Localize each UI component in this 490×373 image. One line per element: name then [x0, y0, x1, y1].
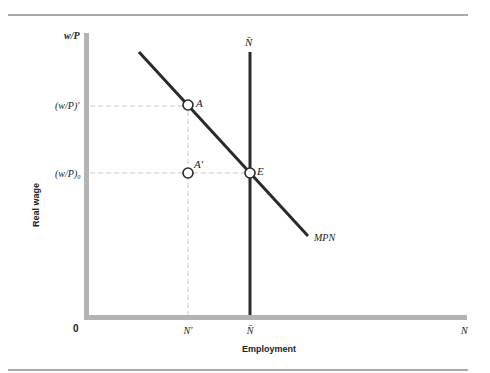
x-var-label: N [460, 325, 469, 336]
y-tick-w-zero: (w/P)₀ [55, 168, 81, 180]
y-axis-title: Real wage [31, 183, 41, 227]
x-tick-n-bar: N̄ [246, 325, 255, 336]
label-a: A [195, 97, 203, 109]
label-a-prime: A′ [193, 158, 204, 170]
point-a [183, 100, 193, 110]
y-tick-w-prime: (w/P)′ [55, 100, 80, 112]
y-var-label: w/P [64, 30, 80, 41]
label-e: E [256, 165, 264, 177]
label-n-bar-top: N̄ [244, 36, 253, 48]
point-a-prime [183, 168, 193, 178]
mpn-curve [139, 52, 308, 236]
label-mpn: MPN [313, 232, 336, 243]
origin-label: 0 [73, 323, 79, 334]
x-tick-n-prime: N′ [183, 325, 194, 336]
x-axis-title: Employment [242, 344, 296, 354]
point-e [245, 168, 255, 178]
labor-market-diagram: A A′ E MPN N̄ w/P (w/P)′ (w/P)₀ Real wag… [0, 0, 490, 373]
